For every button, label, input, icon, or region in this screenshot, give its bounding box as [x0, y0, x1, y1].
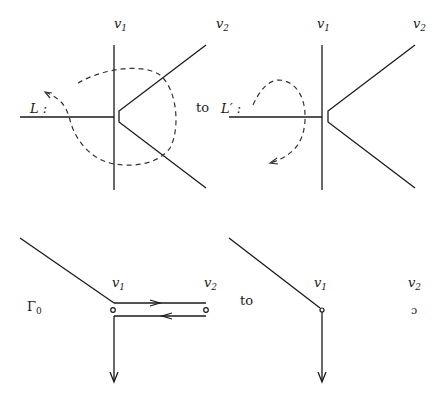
panel-bottom-left: Γ0 v1 v2 — [20, 238, 217, 382]
connector-to: to — [240, 293, 253, 308]
panel-top-left: v1 v2 L : to — [20, 16, 229, 190]
vertex-v1-marker — [320, 308, 324, 312]
wedge-edges — [119, 45, 206, 188]
label-v2: v2 — [216, 16, 229, 33]
label-v2: v2 — [204, 275, 217, 292]
label-v1: v1 — [112, 275, 125, 292]
label-v2: v2 — [408, 275, 421, 292]
label-loop-L-prime: L′ : — [220, 101, 241, 116]
label-gamma-0: Γ0 — [27, 299, 42, 316]
vertex-v2-marker: ɔ — [411, 304, 417, 317]
label-v1: v1 — [317, 16, 330, 33]
tropical-diagram-figure: v1 v2 L : to v1 v2 L′ : — [0, 0, 440, 396]
label-v2: v2 — [413, 16, 426, 33]
label-v1: v1 — [114, 16, 127, 33]
panel-top-right: v1 v2 L′ : — [220, 16, 426, 190]
loop-L-arrowhead — [45, 92, 52, 98]
panel-bottom-right: to v1 v2 ɔ — [229, 238, 421, 382]
vertex-v1-marker — [111, 308, 116, 313]
wedge-edges — [328, 45, 415, 188]
label-v1: v1 — [314, 275, 327, 292]
vertex-v2-marker — [204, 308, 209, 313]
label-loop-L: L : — [29, 101, 47, 116]
loop-L-prime-path — [253, 80, 305, 163]
diagonal-edge — [20, 238, 114, 303]
connector-to: to — [196, 100, 209, 115]
